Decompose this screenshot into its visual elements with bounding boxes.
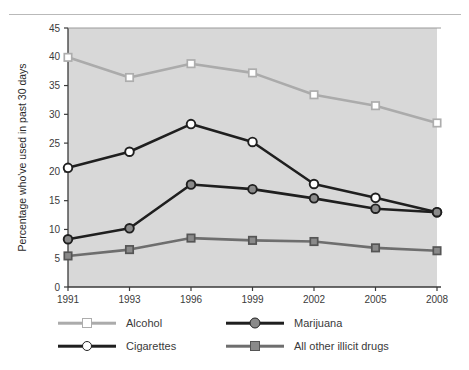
legend-entry-all-other-illicit-drugs: All other illicit drugs (226, 339, 458, 353)
legend-swatch-cigarettes (58, 339, 116, 353)
square-filled-marker-icon (250, 341, 260, 351)
legend-swatch-alcohol (58, 316, 116, 330)
data-point-cigarettes (64, 164, 73, 173)
data-point-cigarettes (125, 147, 134, 156)
x-axis-tick-label: 2005 (364, 294, 387, 305)
circle-open-marker-icon (82, 341, 92, 351)
legend-label-alcohol: Alcohol (116, 317, 162, 329)
plot-svg: 0510152025303540451991199319961999200220… (0, 0, 469, 310)
data-point-cigarettes (371, 193, 380, 202)
x-axis-tick-label: 1991 (57, 294, 80, 305)
y-axis-tick-label: 10 (49, 224, 61, 235)
data-point-alcohol (187, 60, 194, 67)
data-point-marijuana (248, 185, 257, 194)
data-point-all-other-illicit-drugs (310, 238, 317, 245)
y-axis-tick-label: 0 (54, 282, 60, 293)
x-axis-tick-label: 1993 (118, 294, 141, 305)
x-axis-tick-label: 1996 (180, 294, 203, 305)
data-point-cigarettes (310, 180, 319, 189)
data-point-all-other-illicit-drugs (372, 244, 379, 251)
y-axis-tick-label: 45 (49, 23, 61, 34)
legend-label-marijuana: Marijuana (284, 317, 342, 329)
x-axis-tick-label: 1999 (241, 294, 264, 305)
data-point-marijuana (187, 180, 196, 189)
data-point-alcohol (249, 69, 256, 76)
data-point-marijuana (433, 208, 442, 217)
legend-entry-cigarettes: Cigarettes (58, 339, 226, 353)
circle-filled-marker-icon (250, 318, 261, 329)
legend-label-all-other-illicit-drugs: All other illicit drugs (284, 340, 389, 352)
data-point-cigarettes (248, 138, 257, 147)
x-axis-tick-label: 2008 (426, 294, 449, 305)
data-point-alcohol (372, 102, 379, 109)
data-point-marijuana (125, 224, 134, 233)
data-point-marijuana (64, 235, 73, 244)
y-axis-tick-label: 40 (49, 51, 61, 62)
y-axis-tick-label: 35 (49, 80, 61, 91)
x-axis-tick-label: 2002 (303, 294, 326, 305)
data-point-marijuana (371, 204, 380, 213)
data-point-alcohol (64, 54, 71, 61)
legend-entry-marijuana: Marijuana (226, 316, 458, 330)
data-point-all-other-illicit-drugs (187, 234, 194, 241)
y-axis-tick-label: 15 (49, 195, 61, 206)
square-open-marker-icon (82, 318, 92, 328)
data-point-all-other-illicit-drugs (433, 247, 440, 254)
data-point-all-other-illicit-drugs (126, 246, 133, 253)
line-chart: 0510152025303540451991199319961999200220… (0, 0, 469, 310)
chart-legend: Alcohol Marijuana Cigarettes All other i… (58, 316, 458, 353)
y-axis-tick-label: 20 (49, 166, 61, 177)
legend-swatch-all-other-illicit-drugs (226, 339, 284, 353)
data-point-alcohol (126, 74, 133, 81)
data-point-alcohol (310, 91, 317, 98)
y-axis-tick-label: 25 (49, 138, 61, 149)
data-point-all-other-illicit-drugs (249, 237, 256, 244)
data-point-marijuana (310, 194, 319, 203)
data-point-all-other-illicit-drugs (64, 252, 71, 259)
legend-label-cigarettes: Cigarettes (116, 340, 176, 352)
y-axis-tick-label: 30 (49, 109, 61, 120)
legend-entry-alcohol: Alcohol (58, 316, 226, 330)
y-axis-tick-label: 5 (54, 253, 60, 264)
legend-swatch-marijuana (226, 316, 284, 330)
y-axis-title: Percentage who've used in past 30 days (16, 63, 28, 251)
data-point-alcohol (433, 119, 440, 126)
data-point-cigarettes (187, 120, 196, 129)
figure: 0510152025303540451991199319961999200220… (0, 0, 469, 370)
